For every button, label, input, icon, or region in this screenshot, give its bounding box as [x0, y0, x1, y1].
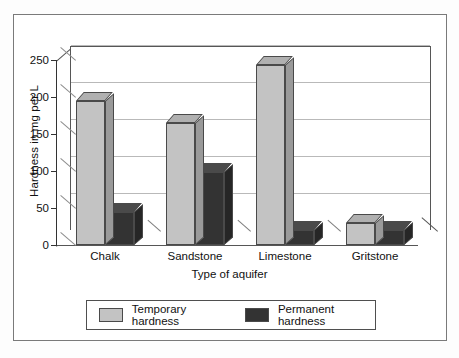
legend: Temporary hardness Permanent hardness [86, 300, 376, 330]
y-axis-tick-label: 250 [30, 54, 49, 66]
legend-swatch-icon-permanent [245, 308, 269, 322]
y-axis-tick-label: 50 [36, 202, 49, 214]
x-axis-label-gritstone: Gritstone [352, 250, 399, 262]
legend-label-permanent: Permanent hardness [278, 303, 375, 327]
y-axis-tick-label: 0 [43, 239, 49, 251]
bar-side-face [285, 57, 294, 245]
y-axis-tick-label: 150 [30, 128, 49, 140]
bar-front-face [256, 65, 285, 245]
gridline [71, 156, 430, 157]
bar-limestone-temporary [256, 65, 285, 245]
bar-sandstone-temporary [166, 123, 195, 245]
x-axis-label-sandstone: Sandstone [168, 250, 223, 262]
gridline [71, 119, 430, 120]
y-axis-tick [51, 171, 56, 172]
y-axis-tick [51, 245, 56, 246]
y-axis-tick [51, 134, 56, 135]
bar-side-face [195, 115, 204, 245]
figure-canvas: Hardness in mg per L 050100150200250 Cha… [0, 0, 459, 358]
y-axis-tick [51, 208, 56, 209]
bar-side-face [105, 93, 114, 245]
x-axis-label-limestone: Limestone [258, 250, 311, 262]
bar-chalk-temporary [76, 101, 105, 245]
y-axis-tick-label: 100 [30, 165, 49, 177]
plot-area: 050100150200250 ChalkSandstoneLimestoneG… [56, 46, 438, 246]
bar-front-face [76, 101, 105, 245]
gridline [71, 45, 430, 46]
bar-front-face [346, 223, 375, 245]
legend-item-temporary-hardness: Temporary hardness [99, 303, 227, 327]
legend-swatch-icon-temporary [99, 308, 123, 322]
gridline [71, 193, 430, 194]
plot-floor-front-edge [56, 245, 418, 246]
bar-front-face [166, 123, 195, 245]
x-axis-title: Type of aquifer [0, 268, 459, 280]
y-axis-tick [51, 97, 56, 98]
y-axis-tick [51, 60, 56, 61]
legend-item-permanent-hardness: Permanent hardness [245, 303, 375, 327]
y-axis-line [56, 60, 57, 246]
y-axis-tick-label: 200 [30, 91, 49, 103]
gridline [71, 82, 430, 83]
x-axis-label-chalk: Chalk [90, 250, 119, 262]
legend-label-temporary: Temporary hardness [132, 303, 227, 327]
bar-gritstone-temporary [346, 223, 375, 245]
bar-side-face [224, 165, 233, 245]
